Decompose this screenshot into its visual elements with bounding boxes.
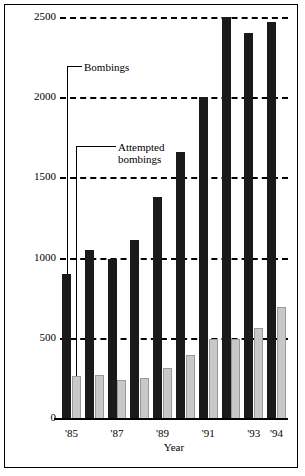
annotation-bombings-leader-elbow [67, 66, 83, 67]
gridline-2500 [60, 17, 288, 19]
bar-bombings-1988 [130, 240, 139, 418]
gridline-1500 [60, 177, 288, 179]
y-tick-label-500: 500 [8, 332, 56, 343]
y-tick-label-2000: 2000 [8, 91, 56, 102]
y-tick-label-1000: 1000 [8, 252, 56, 263]
y-tick-label-1500: 1500 [8, 171, 56, 182]
bar-bombings-1992 [222, 17, 231, 418]
y-axis-labels: 05001000150020002500 [0, 0, 56, 476]
annotation-attempted-bombings-leader-elbow [76, 146, 116, 147]
gridline-1000 [60, 258, 288, 260]
annotation-attempted-bombings-label: Attempted bombings [118, 141, 164, 165]
x-tick-label-1994: '94 [257, 428, 297, 439]
x-tick-label-1989: '89 [143, 428, 183, 439]
bar-attempted-bombings-1985 [72, 376, 81, 418]
bar-attempted-bombings-1991 [209, 339, 218, 418]
bar-bombings-1987 [108, 259, 117, 418]
bar-attempted-bombings-1993 [254, 328, 263, 418]
x-axis-ticks: '85'87'89'91'93'94 [60, 420, 288, 440]
chart-figure: 05001000150020002500 BombingsAttempted b… [0, 0, 305, 476]
bar-bombings-1994 [267, 22, 276, 418]
bar-bombings-1993 [244, 33, 253, 418]
x-tick-label-1987: '87 [97, 428, 137, 439]
annotation-bombings-leader-line [67, 66, 68, 274]
x-tick-label-1991: '91 [188, 428, 228, 439]
bar-attempted-bombings-1986 [95, 375, 104, 418]
bar-attempted-bombings-1994 [277, 307, 286, 418]
bar-bombings-1985 [62, 274, 71, 418]
x-tick-label-1985: '85 [51, 428, 91, 439]
gridline-2000 [60, 97, 288, 99]
bar-bombings-1991 [199, 97, 208, 418]
plot-area: BombingsAttempted bombings [60, 17, 288, 418]
bar-bombings-1990 [176, 152, 185, 418]
annotation-attempted-bombings-leader-line [76, 146, 77, 376]
bar-attempted-bombings-1988 [140, 378, 149, 418]
annotation-bombings-label: Bombings [84, 61, 129, 73]
x-axis-title: Year [60, 441, 288, 453]
bar-bombings-1989 [153, 197, 162, 418]
bar-attempted-bombings-1989 [163, 368, 172, 418]
bar-attempted-bombings-1987 [117, 380, 126, 418]
y-tick-label-2500: 2500 [8, 11, 56, 22]
bar-attempted-bombings-1990 [186, 355, 195, 418]
y-tick-label-0: 0 [8, 412, 56, 423]
bar-attempted-bombings-1992 [231, 339, 240, 418]
bar-bombings-1986 [85, 250, 94, 418]
